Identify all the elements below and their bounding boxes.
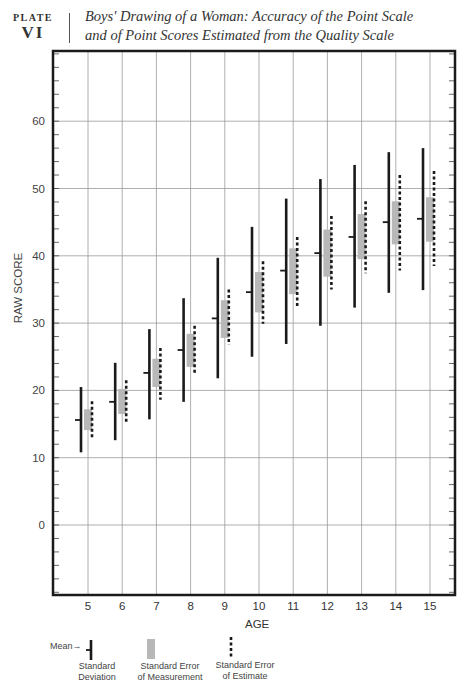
sem-box — [426, 197, 434, 241]
legend-sem-symbol — [147, 639, 155, 659]
x-tick-label: 5 — [85, 600, 91, 612]
y-tick-label: 10 — [32, 452, 45, 464]
x-tick-label: 12 — [321, 600, 334, 612]
x-tick-label: 9 — [222, 600, 228, 612]
legend-sd-label: Standard Deviation — [72, 661, 122, 683]
y-tick-label: 60 — [32, 115, 45, 127]
x-tick-label: 13 — [355, 600, 368, 612]
x-tick-label: 7 — [153, 600, 159, 612]
y-tick-label: 30 — [32, 317, 45, 329]
chart-plot: 010203040506056789101112131415 — [0, 0, 465, 688]
x-axis-label: AGE — [245, 618, 269, 630]
legend-mean-label: Mean→ — [50, 641, 82, 652]
legend-see-label: Standard Error of Estimate — [210, 660, 280, 682]
sem-box — [323, 230, 331, 277]
x-tick-label: 15 — [424, 600, 437, 612]
y-tick-label: 50 — [32, 183, 45, 195]
y-tick-label: 20 — [32, 384, 45, 396]
x-tick-label: 11 — [287, 600, 299, 612]
x-tick-label: 8 — [187, 600, 193, 612]
legend-sem-label: Standard Error of Measurement — [130, 661, 210, 683]
x-tick-label: 14 — [389, 600, 402, 612]
x-tick-label: 10 — [253, 600, 266, 612]
x-tick-label: 6 — [119, 600, 125, 612]
y-axis-label: RAW SCORE — [12, 248, 24, 328]
y-tick-label: 40 — [32, 250, 45, 262]
y-tick-label: 0 — [39, 519, 45, 531]
